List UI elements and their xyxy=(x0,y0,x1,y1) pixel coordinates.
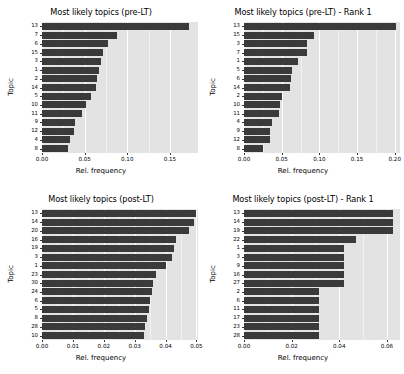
x-axis-label: Rel. frequency xyxy=(202,354,404,362)
y-axis-tick-mark xyxy=(40,283,42,284)
y-axis-tick-mark xyxy=(40,327,42,328)
y-axis-tick-label: 5 xyxy=(237,67,240,72)
y-axis-tick-label: 12 xyxy=(31,128,38,133)
y-axis-tick-label: 16 xyxy=(233,272,240,277)
y-axis-tick-mark xyxy=(40,231,42,232)
bar xyxy=(42,145,68,152)
plot-area xyxy=(244,22,400,153)
bar xyxy=(244,136,270,143)
y-axis-tick-label: 11 xyxy=(233,111,240,116)
panel-pre-lt: Most likely topics (pre-LT)TopicRel. fre… xyxy=(0,0,202,187)
y-axis-tick-mark xyxy=(242,292,244,293)
x-axis-tick-mark xyxy=(42,340,43,342)
bar xyxy=(42,128,74,135)
y-axis-tick-mark xyxy=(242,96,244,97)
y-axis-tick-label: 28 xyxy=(31,324,38,329)
bar xyxy=(42,58,101,65)
y-axis-tick-mark xyxy=(242,222,244,223)
y-axis-tick-label: 9 xyxy=(237,263,240,268)
x-axis-label: Rel. frequency xyxy=(202,167,404,175)
y-axis-tick-mark xyxy=(242,318,244,319)
bar xyxy=(42,315,147,322)
y-axis-tick-label: 22 xyxy=(233,237,240,242)
y-axis-label: Topic xyxy=(209,259,217,289)
y-axis-tick-mark xyxy=(242,149,244,150)
x-axis-tick-label: 0.04 xyxy=(325,344,353,350)
y-axis-tick-label: 23 xyxy=(233,324,240,329)
gridline-vertical xyxy=(170,22,171,153)
x-axis-tick-label: 0.00 xyxy=(230,344,258,350)
y-axis-tick-mark xyxy=(40,257,42,258)
y-axis-tick-mark xyxy=(40,213,42,214)
y-axis-label: Topic xyxy=(7,72,15,102)
bar xyxy=(244,288,319,295)
y-axis-tick-mark xyxy=(242,122,244,123)
y-axis-tick-label: 1 xyxy=(35,67,38,72)
y-axis-tick-mark xyxy=(40,292,42,293)
plot-area xyxy=(42,209,198,340)
x-axis-tick-label: 0.15 xyxy=(156,157,184,163)
gridline-vertical-minor xyxy=(376,22,377,153)
y-axis-tick-mark xyxy=(242,213,244,214)
bar xyxy=(42,119,75,126)
x-axis-tick-mark xyxy=(282,153,283,155)
bar xyxy=(244,145,263,152)
x-axis-label: Rel. frequency xyxy=(0,354,202,362)
x-axis-tick-mark xyxy=(42,153,43,155)
y-axis-tick-mark xyxy=(40,140,42,141)
y-axis-tick-mark xyxy=(242,248,244,249)
y-axis-tick-mark xyxy=(40,61,42,62)
y-axis-tick-label: 1 xyxy=(237,58,240,63)
y-axis-tick-label: 5 xyxy=(35,306,38,311)
y-axis-tick-mark xyxy=(40,318,42,319)
bar xyxy=(244,236,356,243)
y-axis-tick-mark xyxy=(40,240,42,241)
y-axis-tick-mark xyxy=(242,53,244,54)
x-axis-tick-label: 0.05 xyxy=(268,157,296,163)
y-axis-tick-label: 6 xyxy=(35,41,38,46)
bar xyxy=(244,101,280,108)
y-axis-tick-label: 8 xyxy=(35,315,38,320)
y-axis-tick-mark xyxy=(242,26,244,27)
bar xyxy=(244,271,344,278)
bar xyxy=(244,23,396,30)
y-axis-tick-label: 17 xyxy=(233,315,240,320)
bar xyxy=(42,23,189,30)
bar xyxy=(42,75,97,82)
y-axis-tick-mark xyxy=(40,88,42,89)
y-axis-tick-label: 1 xyxy=(237,245,240,250)
y-axis-tick-mark xyxy=(242,283,244,284)
gridline-vertical xyxy=(196,209,197,340)
x-axis-tick-mark xyxy=(339,340,340,342)
bar xyxy=(42,110,82,117)
bar xyxy=(244,119,272,126)
y-axis-tick-mark xyxy=(40,275,42,276)
y-axis-tick-label: 13 xyxy=(31,210,38,215)
panel-title: Most likely topics (post-LT) - Rank 1 xyxy=(202,194,404,204)
y-axis-label: Topic xyxy=(7,259,15,289)
bar xyxy=(244,210,393,217)
y-axis-tick-label: 10 xyxy=(233,102,240,107)
bar xyxy=(244,67,292,74)
y-axis-tick-label: 13 xyxy=(233,23,240,28)
bar xyxy=(244,75,291,82)
bar xyxy=(42,101,86,108)
y-axis-tick-label: 4 xyxy=(35,137,38,142)
bar xyxy=(42,219,194,226)
y-axis-tick-mark xyxy=(242,336,244,337)
bar xyxy=(42,262,166,269)
y-axis-tick-label: 13 xyxy=(31,23,38,28)
gridline-vertical xyxy=(357,22,358,153)
y-axis-tick-label: 5 xyxy=(35,93,38,98)
x-axis-tick-mark xyxy=(319,153,320,155)
y-axis-tick-label: 14 xyxy=(31,85,38,90)
gridline-vertical xyxy=(319,22,320,153)
y-axis-tick-label: 8 xyxy=(35,146,38,151)
y-axis-tick-mark xyxy=(242,266,244,267)
panel-pre-lt-rank1: Most likely topics (pre-LT) - Rank 1Topi… xyxy=(202,0,404,187)
y-axis-tick-label: 14 xyxy=(233,85,240,90)
y-axis-tick-label: 14 xyxy=(233,219,240,224)
y-axis-tick-mark xyxy=(40,309,42,310)
y-axis-tick-mark xyxy=(40,96,42,97)
y-axis-tick-label: 3 xyxy=(35,58,38,63)
